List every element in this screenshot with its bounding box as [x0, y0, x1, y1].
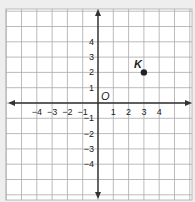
x-tick-label: −2	[62, 107, 72, 117]
plot-area	[6, 9, 192, 200]
coordinate-plane: −4−3−2−11234 4321−1−2−3−4 O K	[0, 0, 195, 202]
x-tick-label: 1	[111, 107, 116, 117]
origin-label: O	[101, 90, 110, 102]
x-tick-label: 3	[141, 107, 146, 117]
y-tick-label: 2	[89, 67, 94, 77]
y-tick-label: 4	[89, 37, 94, 47]
x-tick-label: −3	[47, 107, 57, 117]
x-tick-label: −4	[32, 107, 42, 117]
y-tick-label: −3	[84, 144, 94, 154]
y-tick-label: −1	[84, 113, 94, 123]
point-label: K	[134, 58, 143, 70]
x-tick-label: 2	[126, 107, 131, 117]
y-tick-label: 1	[89, 83, 94, 93]
y-tick-label: −2	[84, 129, 94, 139]
y-tick-label: 3	[89, 52, 94, 62]
y-tick-label: −4	[84, 159, 94, 169]
x-tick-label: 4	[157, 107, 162, 117]
